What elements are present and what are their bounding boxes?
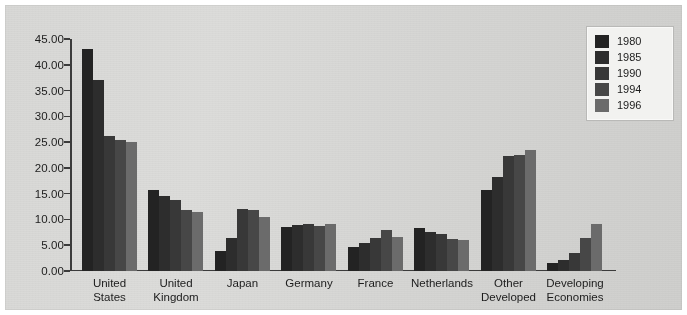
bar — [492, 177, 503, 271]
bar — [414, 228, 425, 271]
y-tick-label: 5.00 — [41, 239, 64, 251]
legend-item[interactable]: 1980 — [595, 35, 641, 48]
y-tick-label: 10.00 — [35, 213, 64, 225]
legend-color-swatch — [595, 67, 609, 80]
y-tick-label: 45.00 — [35, 33, 64, 45]
bar — [481, 190, 492, 271]
bar — [381, 230, 392, 271]
bar — [580, 238, 591, 272]
bar-group — [348, 39, 403, 271]
legend-item[interactable]: 1996 — [595, 99, 641, 112]
bar — [148, 190, 159, 271]
legend-label: 1994 — [617, 83, 641, 96]
bar — [458, 240, 469, 271]
y-tick-label: 0.00 — [41, 265, 64, 277]
x-tick-label: Developing Economies — [533, 277, 617, 304]
bar-group — [414, 39, 469, 271]
bar — [215, 251, 226, 271]
bar — [292, 225, 303, 271]
x-axis-labels: United StatesUnited KingdomJapanGermanyF… — [0, 277, 687, 311]
bar — [159, 196, 170, 271]
bar — [525, 150, 536, 271]
y-tick-mark — [64, 90, 70, 92]
y-tick-mark — [64, 64, 70, 66]
bar — [514, 155, 525, 271]
bar — [115, 140, 126, 271]
bar — [281, 227, 292, 271]
bar — [303, 224, 314, 271]
bar-group — [481, 39, 536, 271]
bar — [569, 253, 580, 271]
y-tick-label: 35.00 — [35, 85, 64, 97]
bar — [503, 156, 514, 271]
y-tick-mark — [64, 38, 70, 40]
bar — [348, 247, 359, 271]
y-tick-mark — [64, 244, 70, 246]
y-tick-label: 25.00 — [35, 136, 64, 148]
legend-color-swatch — [595, 35, 609, 48]
chart-legend: 19801985199019941996 — [586, 26, 674, 121]
bar — [226, 238, 237, 272]
bar — [126, 142, 137, 271]
bar — [170, 200, 181, 271]
bar — [181, 210, 192, 271]
y-tick-mark — [64, 167, 70, 169]
legend-item[interactable]: 1990 — [595, 67, 641, 80]
bar — [82, 49, 93, 271]
bar-group — [215, 39, 270, 271]
y-tick-label: 20.00 — [35, 162, 64, 174]
legend-color-swatch — [595, 51, 609, 64]
y-tick-mark — [64, 193, 70, 195]
y-tick-label: 30.00 — [35, 110, 64, 122]
y-tick-label: 15.00 — [35, 188, 64, 200]
bar — [93, 80, 104, 271]
legend-item[interactable]: 1985 — [595, 51, 641, 64]
bar — [359, 243, 370, 271]
bar-groups — [72, 39, 572, 271]
bar — [248, 210, 259, 271]
bar — [314, 226, 325, 271]
legend-color-swatch — [595, 83, 609, 96]
bar — [370, 238, 381, 272]
bar — [237, 209, 248, 271]
y-tick-label: 40.00 — [35, 59, 64, 71]
bar — [325, 224, 336, 271]
bar — [259, 217, 270, 271]
bar — [447, 239, 458, 271]
y-tick-mark — [64, 141, 70, 143]
y-tick-mark — [64, 116, 70, 118]
legend-label: 1980 — [617, 35, 641, 48]
legend-color-swatch — [595, 99, 609, 112]
y-tick-mark — [64, 219, 70, 221]
bar — [558, 260, 569, 271]
bar — [192, 212, 203, 271]
bar — [104, 136, 115, 271]
legend-label: 1985 — [617, 51, 641, 64]
legend-label: 1990 — [617, 67, 641, 80]
bar-group — [148, 39, 203, 271]
bar — [591, 224, 602, 271]
y-axis-labels: 0.005.0010.0015.0020.0025.0030.0035.0040… — [22, 39, 64, 271]
bar-group — [281, 39, 336, 271]
legend-label: 1996 — [617, 99, 641, 112]
y-tick-mark — [64, 270, 70, 272]
bar — [436, 234, 447, 271]
bar — [392, 237, 403, 271]
bar-group — [82, 39, 137, 271]
bar-chart: 0.005.0010.0015.0020.0025.0030.0035.0040… — [0, 0, 687, 315]
legend-item[interactable]: 1994 — [595, 83, 641, 96]
bar — [547, 263, 558, 271]
bar — [425, 232, 436, 271]
